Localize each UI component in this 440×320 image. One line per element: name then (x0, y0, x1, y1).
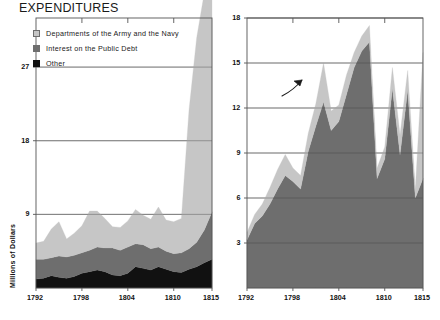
revenue-panel: REVENUE Customs Other Total Revenue Mill… (220, 0, 440, 320)
expenditures-x-tick-1804: 1804 (119, 293, 135, 302)
revenue-plot (220, 0, 440, 320)
expenditures-legend: Departments of the Army and the Navy Int… (33, 27, 179, 72)
expenditures-panel: EXPENDITURES Departments of the Army and… (0, 0, 220, 320)
revenue-y-tick-18: 18 (232, 13, 240, 22)
legend-item-interest: Interest on the Public Debt (33, 42, 179, 54)
legend-swatch-interest (33, 45, 40, 52)
legend-item-other: Other (33, 57, 179, 69)
expenditures-x-tick-1810: 1810 (165, 293, 181, 302)
revenue-x-tick-1798: 1798 (284, 293, 300, 302)
legend-label-army-navy: Departments of the Army and the Navy (46, 29, 179, 38)
revenue-x-tick-1810: 1810 (376, 293, 392, 302)
expenditures-x-tick-1798: 1798 (73, 293, 89, 302)
legend-label-other: Other (46, 59, 65, 68)
revenue-x-tick-1792: 1792 (238, 293, 254, 302)
legend-swatch-other (33, 60, 40, 67)
revenue-y-tick-6: 6 (237, 193, 241, 202)
expenditures-y-axis-label: Millions of Dollars (9, 224, 16, 288)
expenditures-x-tick-1792: 1792 (27, 293, 43, 302)
expenditures-y-tick-9: 9 (26, 209, 30, 218)
figure-panels: EXPENDITURES Departments of the Army and… (0, 0, 440, 320)
legend-item-army-navy: Departments of the Army and the Navy (33, 27, 179, 39)
revenue-y-tick-3: 3 (237, 238, 241, 247)
expenditures-y-tick-18: 18 (21, 136, 29, 145)
revenue-x-tick-1815: 1815 (414, 293, 430, 302)
revenue-y-tick-12: 12 (232, 103, 240, 112)
revenue-y-tick-15: 15 (232, 58, 240, 67)
expenditures-x-tick-1815: 1815 (203, 293, 219, 302)
revenue-y-tick-9: 9 (237, 148, 241, 157)
expenditures-y-tick-27: 27 (21, 62, 29, 71)
legend-label-interest: Interest on the Public Debt (46, 44, 137, 53)
revenue-x-tick-1804: 1804 (330, 293, 346, 302)
legend-swatch-army-navy (33, 30, 40, 37)
